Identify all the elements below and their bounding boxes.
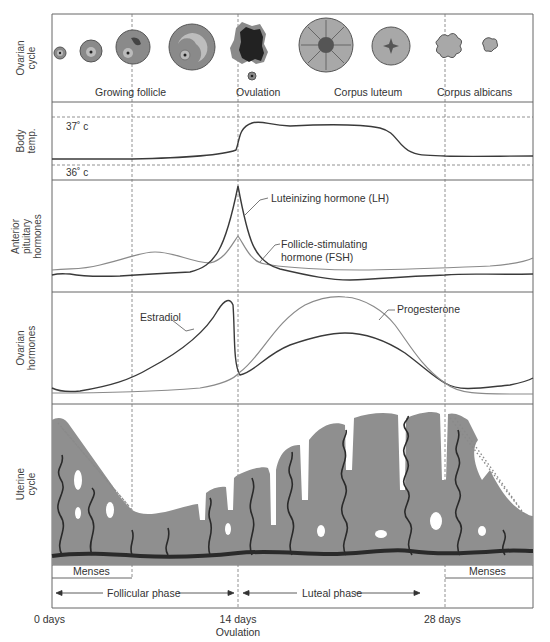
uterine-endometrium [52, 412, 533, 565]
label-corpus-albicans: Corpus albicans [437, 86, 512, 98]
axis-day28: 28 days [424, 613, 461, 625]
label-corpus-luteum: Corpus luteum [334, 86, 403, 98]
corpus-albicans-large [436, 33, 462, 57]
ovarian-cycle-illustrations [54, 18, 498, 80]
lh-leader [245, 198, 268, 215]
ovulation-rupture [230, 22, 268, 80]
follicle-stage-1 [54, 47, 66, 59]
corpus-albicans-small [483, 38, 498, 52]
fsh-label-line2: hormone (FSH) [281, 251, 353, 263]
label-growing-follicle: Growing follicle [95, 86, 166, 98]
temp-reference-lines [52, 117, 533, 165]
menstrual-cycle-diagram: Growing follicle Ovulation Corpus luteum… [0, 0, 550, 642]
temp-label-36: 36˚ c [66, 167, 88, 178]
temp-label-37: 37˚ c [66, 121, 88, 132]
follicle-stage-3 [116, 30, 150, 64]
axis-day0: 0 days [34, 613, 65, 625]
luteal-phase-label: Luteal phase [302, 587, 362, 599]
axis-day14: 14 days [220, 613, 257, 625]
label-ovulation: Ovulation [236, 86, 281, 98]
menses-start-label: Menses [73, 565, 110, 577]
axis-day14-ovulation: Ovulation [216, 626, 261, 638]
follicular-phase-label: Follicular phase [107, 587, 181, 599]
follicle-stage-4 [169, 24, 215, 70]
follicle-stage-2 [80, 40, 102, 62]
corpus-luteum-small [372, 27, 410, 65]
lh-label: Luteinizing hormone (LH) [271, 192, 389, 204]
progesterone-curve [52, 297, 533, 394]
corpus-luteum-large [299, 18, 353, 72]
fsh-label-line1: Follicle-stimulating [281, 238, 368, 250]
menses-end-label: Menses [469, 565, 506, 577]
body-temp-curve [52, 122, 533, 159]
progesterone-label: Progesterone [397, 303, 460, 315]
estradiol-label: Estradiol [140, 311, 181, 323]
